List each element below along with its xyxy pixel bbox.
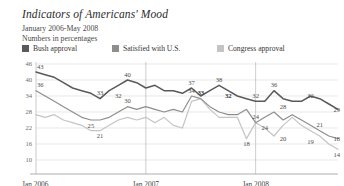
data-point-label: 36 [37, 81, 44, 88]
y-axis-tick-label: 16 [25, 140, 32, 147]
legend-item-satisfied-with-us[interactable]: Satisfied with U.S. [112, 44, 217, 53]
subtitle-units: Numbers in percentages [22, 34, 97, 43]
y-axis-tick-label: 28 [25, 108, 32, 115]
data-point-label: 18 [333, 135, 340, 142]
y-axis-tick-label: 40 [25, 76, 32, 83]
subtitle-date-range: January 2006-May 2008 [22, 24, 98, 33]
data-point-label: 18 [243, 140, 250, 147]
x-axis-tick-label: Jan 2006 [22, 180, 49, 186]
line-chart: 46403428221610Jan 2006Jan 2007Jan 200843… [0, 56, 344, 186]
legend-label-satisfied-with-us: Satisfied with U.S. [123, 44, 180, 53]
data-point-label: 28 [280, 103, 287, 110]
legend-swatch-bush-approval [22, 45, 29, 52]
data-point-label: 30 [124, 97, 131, 104]
data-point-label: 24 [261, 124, 268, 131]
x-axis-tick-label: Jan 2008 [242, 180, 269, 186]
data-point-label: 32 [225, 92, 232, 99]
y-axis-tick-label: 46 [25, 60, 32, 67]
data-point-label: 36 [271, 81, 278, 88]
data-point-label: 34 [188, 87, 195, 94]
data-point-label: 33 [97, 89, 104, 96]
data-point-label: 24 [252, 113, 259, 120]
data-point-label: 33 [197, 89, 204, 96]
chart-legend: Bush approval Satisfied with U.S. Congre… [22, 44, 285, 53]
data-point-label: 43 [37, 63, 44, 70]
data-point-label: 20 [280, 135, 287, 142]
x-axis-tick-label: Jan 2007 [133, 180, 160, 186]
data-point-label: 21 [316, 121, 323, 128]
legend-label-bush-approval: Bush approval [33, 44, 77, 53]
chart-page: Indicators of Americans' Mood January 20… [0, 0, 344, 186]
data-point-label: 25 [88, 122, 95, 129]
y-axis-tick-label: 34 [25, 92, 32, 99]
data-point-label: 29 [333, 106, 340, 113]
series-line-congress-approval [36, 99, 338, 150]
data-point-label: 14 [333, 151, 340, 158]
data-point-label: 19 [307, 138, 314, 145]
data-point-label: 32 [307, 92, 314, 99]
legend-label-congress-approval: Congress approval [228, 44, 285, 53]
legend-item-bush-approval[interactable]: Bush approval [22, 44, 112, 53]
y-axis-tick-label: 22 [25, 124, 32, 131]
legend-swatch-satisfied-with-us [112, 45, 119, 52]
data-point-label: 32 [252, 92, 259, 99]
data-point-label: 40 [124, 71, 131, 78]
page-title: Indicators of Americans' Mood [22, 8, 168, 20]
legend-item-congress-approval[interactable]: Congress approval [217, 44, 285, 53]
data-point-label: 37 [188, 79, 195, 86]
chart-plot-area: 46403428221610Jan 2006Jan 2007Jan 200843… [0, 56, 344, 186]
data-point-label: 32 [115, 92, 122, 99]
y-axis-tick-label: 10 [25, 156, 32, 163]
data-point-label: 21 [97, 132, 104, 139]
data-point-label: 38 [216, 76, 223, 83]
legend-swatch-congress-approval [217, 45, 224, 52]
